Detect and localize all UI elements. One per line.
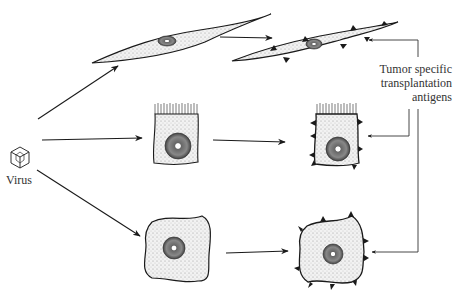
arrow-epithelial-transform bbox=[213, 140, 285, 142]
transformed-epithelial-cell bbox=[309, 103, 363, 170]
arrow-fibroblast-transform bbox=[220, 37, 272, 38]
pointer-to-epithelial bbox=[368, 109, 409, 136]
transformation-arrows bbox=[213, 37, 288, 253]
virus-arrows bbox=[37, 66, 142, 236]
arrow-virus-to-round bbox=[37, 170, 140, 236]
normal-round-cell bbox=[145, 216, 211, 282]
antigens-label-line-2: transplantation bbox=[368, 76, 452, 90]
tumor-antigens-label: Tumor specific transplantation antigens bbox=[368, 62, 452, 104]
diagram-canvas: Virus Tumor specific transplantation ant… bbox=[0, 0, 454, 294]
antigens-label-line-3: antigens bbox=[368, 90, 452, 104]
nucleus bbox=[326, 137, 350, 161]
virus-icon bbox=[11, 147, 29, 168]
nucleus bbox=[165, 133, 191, 159]
pointer-to-round bbox=[372, 109, 418, 252]
arrow-virus-to-epithelial bbox=[42, 138, 142, 140]
nucleus bbox=[323, 244, 343, 264]
arrow-virus-to-fibroblast bbox=[38, 66, 118, 119]
normal-fibroblast-cell bbox=[92, 14, 271, 63]
arrow-round-transform bbox=[226, 251, 288, 253]
pointer-to-fibroblast bbox=[369, 40, 418, 57]
normal-epithelial-cell bbox=[153, 103, 198, 164]
transformed-round-cell bbox=[294, 211, 369, 290]
nucleus bbox=[163, 237, 185, 259]
transformed-fibroblast-cell bbox=[232, 21, 398, 63]
virus-label: Virus bbox=[6, 173, 32, 187]
antigens-label-line-1: Tumor specific bbox=[368, 62, 452, 76]
nucleus bbox=[158, 36, 176, 46]
